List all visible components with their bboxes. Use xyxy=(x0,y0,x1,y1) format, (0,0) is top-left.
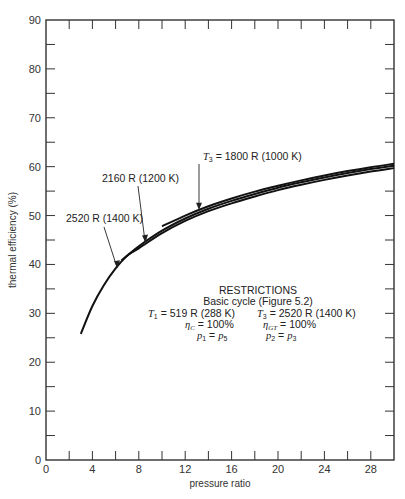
y-tick-label: 30 xyxy=(29,307,41,319)
y-tick-label: 90 xyxy=(29,14,41,26)
plot-frame xyxy=(46,20,394,460)
restriction-p2: p2 = p3 xyxy=(265,329,296,342)
x-tick-label: 28 xyxy=(365,463,377,475)
x-tick-label: 4 xyxy=(89,463,95,475)
y-tick-label: 60 xyxy=(29,161,41,173)
y-tick-label: 50 xyxy=(29,210,41,222)
x-tick-label: 16 xyxy=(225,463,237,475)
x-axis-title: pressure ratio xyxy=(189,478,251,489)
axes: 04812162024280102030405060708090 xyxy=(29,14,394,475)
y-axis-title: thermal efficiency (%) xyxy=(7,192,18,288)
x-tick-label: 8 xyxy=(136,463,142,475)
curve-label-2520R: 2520 R (1400 K) xyxy=(66,212,143,224)
y-tick-label: 70 xyxy=(29,112,41,124)
y-tick-label: 20 xyxy=(29,356,41,368)
y-tick-label: 80 xyxy=(29,63,41,75)
x-tick-label: 20 xyxy=(272,463,284,475)
curve-label-2160R: 2160 R (1200 K) xyxy=(102,172,179,184)
x-tick-label: 0 xyxy=(43,463,49,475)
restriction-p1: p1 = p5 xyxy=(196,329,227,342)
y-tick-label: 40 xyxy=(29,258,41,270)
x-tick-label: 24 xyxy=(318,463,330,475)
curve-label-1800R: T3 = 1800 R (1000 K) xyxy=(203,150,302,163)
restrictions-box: RESTRICTIONS Basic cycle (Figure 5.2) T1… xyxy=(148,284,356,342)
y-tick-label: 10 xyxy=(29,405,41,417)
restrictions-subtitle: Basic cycle (Figure 5.2) xyxy=(203,295,313,307)
y-tick-label: 0 xyxy=(35,454,41,466)
x-tick-label: 12 xyxy=(179,463,191,475)
efficiency-chart: 04812162024280102030405060708090 T3 = 18… xyxy=(0,0,405,499)
curve-labels: T3 = 1800 R (1000 K)2160 R (1200 K)2520 … xyxy=(66,150,302,268)
